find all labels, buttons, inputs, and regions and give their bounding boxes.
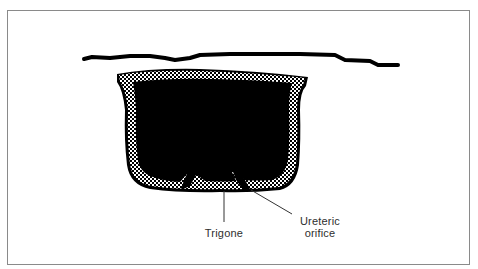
ureteric-label-line1: Ureteric	[292, 215, 348, 227]
ureteric-label-line2: orifice	[292, 227, 348, 239]
trigone-label: Trigone	[199, 227, 249, 239]
bladder-lumen	[133, 79, 292, 182]
ureteric-leader-line	[251, 190, 292, 214]
ureteric-orifice-label: Ureteric orifice	[292, 215, 348, 239]
surface-line	[84, 54, 398, 65]
